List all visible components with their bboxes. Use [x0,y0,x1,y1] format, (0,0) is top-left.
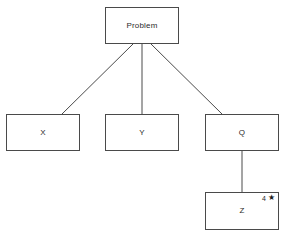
node-x[interactable]: X [6,114,80,151]
star-icon: ★ [268,194,275,202]
node-z[interactable]: Z 4 ★ [205,192,279,230]
diagram-canvas: Problem X Y Q Z 4 ★ [0,0,289,242]
edge-problem-q [151,44,222,114]
edge-problem-x [62,44,133,114]
node-z-badge: 4 ★ [262,194,275,202]
node-x-label: X [40,129,46,137]
node-y-label: Y [139,129,145,137]
node-q-label: Q [239,129,245,137]
node-y[interactable]: Y [105,114,179,151]
node-z-label: Z [239,207,244,215]
node-q[interactable]: Q [205,114,279,151]
node-z-badge-number: 4 [262,195,266,202]
node-problem[interactable]: Problem [105,7,179,44]
node-problem-label: Problem [126,22,157,30]
